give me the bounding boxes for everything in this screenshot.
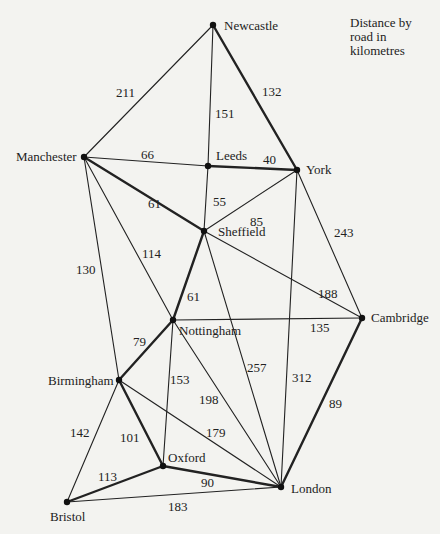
distance-label-birmingham-london: 179 [206, 425, 226, 440]
edge-manchester-nottingham [84, 157, 173, 320]
distance-label-birmingham-bristol: 142 [70, 425, 90, 440]
edge-leeds-sheffield [204, 166, 208, 231]
legend-line-2: road in [350, 30, 440, 44]
distance-label-york-cambridge: 243 [334, 225, 354, 240]
distance-label-oxford-bristol: 113 [98, 469, 117, 484]
edge-birmingham-oxford [119, 380, 163, 466]
city-node-york [294, 167, 300, 173]
city-node-nottingham [170, 317, 176, 323]
distance-label-manchester-leeds: 66 [141, 147, 155, 162]
distance-label-manchester-sheffield: 61 [148, 196, 161, 211]
city-label-sheffield: Sheffield [218, 224, 266, 239]
distance-label-nottingham-cambridge: 135 [310, 320, 330, 335]
city-node-cambridge [359, 315, 365, 321]
edge-newcastle-manchester [84, 25, 213, 157]
edge-newcastle-leeds [208, 25, 213, 166]
distance-label-sheffield-nottingham: 61 [187, 289, 200, 304]
edge-nottingham-oxford [163, 320, 173, 466]
edge-york-london [281, 170, 297, 487]
distance-label-leeds-sheffield: 55 [213, 194, 226, 209]
city-node-birmingham [116, 377, 122, 383]
legend-line-3: kilometres [350, 44, 440, 58]
distance-label-sheffield-cambridge: 188 [318, 286, 338, 301]
edge-sheffield-nottingham [173, 231, 204, 320]
distance-label-leeds-york: 40 [263, 152, 276, 167]
distance-label-manchester-birmingham: 130 [76, 262, 96, 277]
distance-label-nottingham-birmingham: 79 [133, 334, 146, 349]
city-node-manchester [81, 154, 87, 160]
city-node-newcastle [210, 22, 216, 28]
distance-label-nottingham-oxford: 153 [170, 372, 190, 387]
city-label-leeds: Leeds [216, 148, 247, 163]
distance-label-birmingham-oxford: 101 [120, 430, 140, 445]
edge-manchester-sheffield [84, 157, 204, 231]
city-label-birmingham: Birmingham [48, 373, 114, 388]
city-label-nottingham: Nottingham [179, 323, 241, 338]
city-label-bristol: Bristol [50, 509, 86, 524]
city-label-oxford: Oxford [168, 450, 206, 465]
edge-nottingham-birmingham [119, 320, 173, 380]
edge-sheffield-cambridge [204, 231, 362, 318]
road-network-graph: 2111511326640615585243312114130611882571… [0, 0, 440, 534]
city-label-newcastle: Newcastle [224, 18, 278, 33]
distance-label-manchester-nottingham: 114 [142, 246, 162, 261]
legend: Distance by road in kilometres [350, 16, 440, 58]
edge-nottingham-cambridge [173, 318, 362, 320]
distance-label-oxford-london: 90 [201, 475, 214, 490]
distance-label-newcastle-leeds: 151 [215, 106, 235, 121]
city-node-oxford [160, 463, 166, 469]
distance-label-newcastle-manchester: 211 [116, 85, 135, 100]
distance-label-nottingham-london: 198 [199, 392, 219, 407]
distance-label-cambridge-london: 89 [329, 396, 342, 411]
city-label-york: York [306, 162, 332, 177]
legend-line-1: Distance by [350, 16, 440, 30]
edge-oxford-london [163, 466, 281, 487]
city-node-sheffield [201, 228, 207, 234]
distance-labels: 2111511326640615585243312114130611882571… [70, 84, 354, 514]
edge-leeds-york [208, 166, 297, 170]
road-distance-diagram: 2111511326640615585243312114130611882571… [0, 0, 440, 534]
city-node-bristol [64, 499, 70, 505]
distance-label-newcastle-york: 132 [262, 84, 282, 99]
city-node-london [278, 484, 284, 490]
distance-label-york-london: 312 [292, 370, 312, 385]
city-label-london: London [291, 481, 332, 496]
city-node-leeds [205, 163, 211, 169]
distance-label-bristol-london: 183 [168, 499, 188, 514]
distance-label-sheffield-london: 257 [247, 360, 267, 375]
edge-sheffield-london [204, 231, 281, 487]
city-label-cambridge: Cambridge [371, 310, 429, 325]
edge-cambridge-london [281, 318, 362, 487]
city-label-manchester: Manchester [16, 149, 77, 164]
